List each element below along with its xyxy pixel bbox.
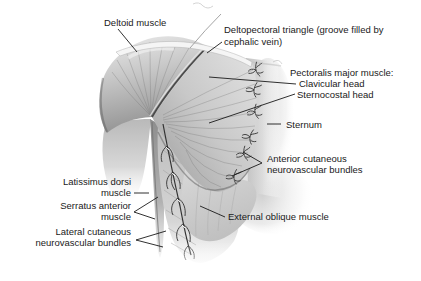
lateral-bundles-label-line2: neurovascular bundles xyxy=(0,237,131,248)
lateral-bundles-label-line1: Lateral cutaneous xyxy=(0,226,131,237)
external-oblique-label: External oblique muscle xyxy=(228,211,329,222)
deltoid-label: Deltoid muscle xyxy=(104,17,166,28)
serratus-label-line2: muscle xyxy=(0,211,131,222)
serratus-label-line1: Serratus anterior xyxy=(0,200,131,211)
deltopectoral-label-line1: Deltopectoral triangle (groove filled by xyxy=(224,24,383,35)
clavicular-head-label: Clavicular head xyxy=(299,78,364,89)
sternum-label: Sternum xyxy=(286,119,322,130)
latissimus-label-line2: muscle xyxy=(0,187,131,198)
figure-canvas: Deltoid muscle Deltopectoral triangle (g… xyxy=(0,0,421,281)
sternocostal-head-label: Sternocostal head xyxy=(297,89,374,100)
latissimus-label-line1: Latissimus dorsi xyxy=(0,176,131,187)
anterior-bundles-label-line2: neurovascular bundles xyxy=(267,164,363,175)
anterior-bundles-label-line1: Anterior cutaneous xyxy=(267,153,347,164)
deltopectoral-label-line2: cephalic vein) xyxy=(224,36,282,47)
pectoralis-major-label: Pectoralis major muscle: xyxy=(290,67,393,78)
